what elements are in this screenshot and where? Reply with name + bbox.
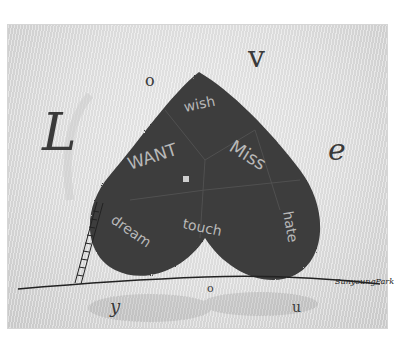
artist-signature: SunyoungPark (335, 277, 394, 286)
heart-reflection (88, 292, 318, 322)
letter-o-bottom: o (207, 282, 214, 295)
letter-o: o (145, 71, 155, 90)
letter-e: e (328, 132, 346, 167)
letter-l: L (41, 102, 77, 162)
ground-line (18, 276, 380, 289)
letter-y: y (109, 296, 121, 317)
letter-v: v (247, 39, 265, 74)
painting-artwork: L o v e y o u wish WANT Miss dream touch… (0, 0, 417, 358)
letter-u: u (292, 299, 301, 315)
window-icon (183, 176, 189, 182)
